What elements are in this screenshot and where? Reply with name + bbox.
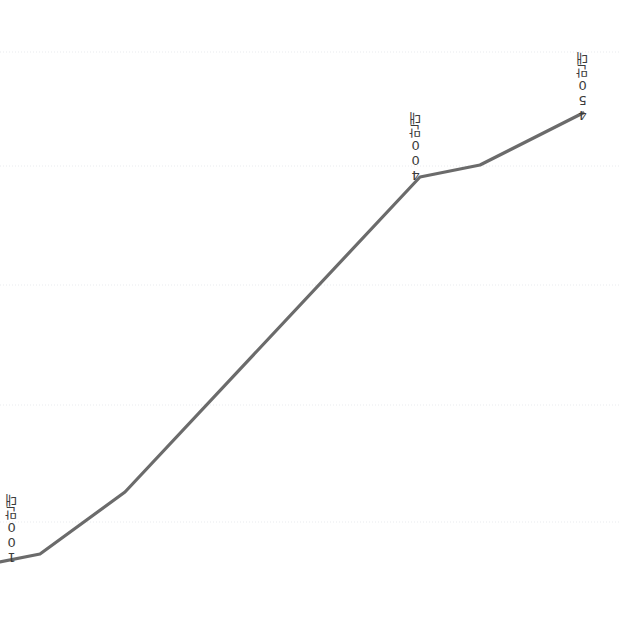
data-label-mid: 400만대 [409,112,422,183]
series-line-0 [0,113,583,562]
series-group [0,113,583,562]
data-label-end: 450만대 [576,52,589,123]
data-label-start: 100만대 [5,494,18,565]
gridlines-group [0,52,619,522]
chart-container: 100만대 400만대 450만대 [0,0,619,624]
chart-plot-area [0,0,619,624]
